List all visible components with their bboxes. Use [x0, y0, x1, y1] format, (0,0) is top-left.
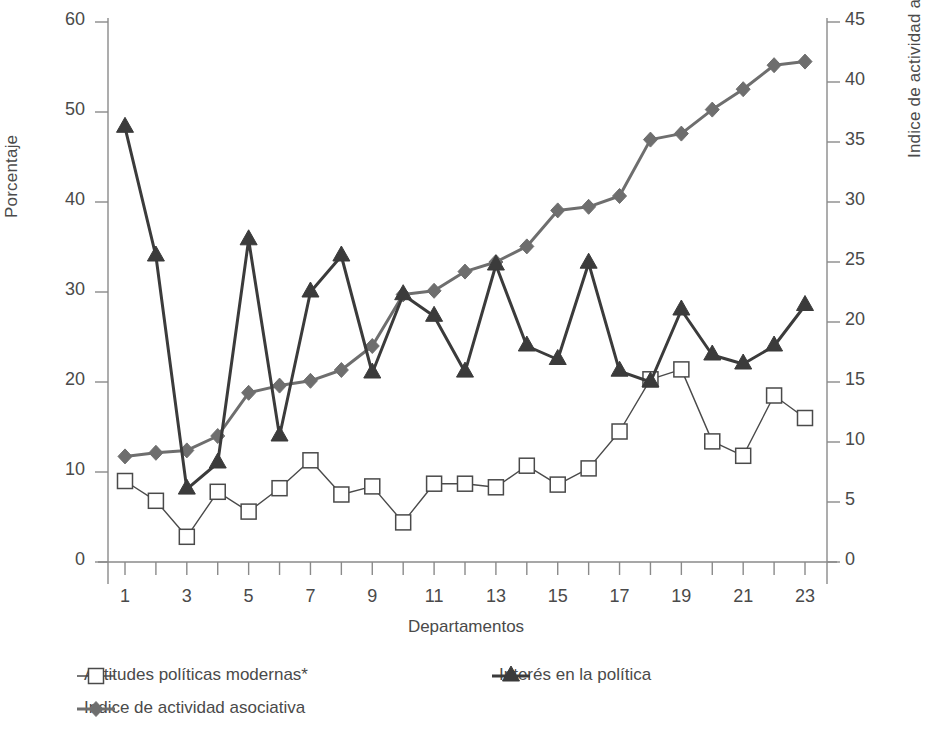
legend-marker-filled-triangle-icon: [490, 665, 532, 687]
x-tick-label: 21: [723, 586, 763, 607]
series-line: [125, 127, 805, 489]
series-marker: [396, 515, 411, 530]
y-tick-label-right: 40: [845, 69, 891, 90]
series-marker: [118, 474, 133, 489]
legend-marker: [89, 669, 104, 684]
x-tick-label: 19: [661, 586, 701, 607]
series-marker: [458, 476, 473, 491]
series-marker: [582, 199, 596, 214]
legend-item-label: Actitudes políticas modernas*: [84, 665, 308, 685]
series-marker: [334, 487, 349, 502]
y-tick-label-left: 20: [33, 369, 85, 390]
y-tick-label-right: 0: [845, 549, 891, 570]
legend-item-label: Indice de actividad asociativa: [84, 698, 305, 718]
y-tick-label-right: 20: [845, 309, 891, 330]
x-tick-label: 17: [600, 586, 640, 607]
series-marker: [149, 445, 163, 460]
series-marker: [643, 132, 657, 147]
series-marker: [613, 189, 627, 204]
legend-marker-filled-diamond-icon: [75, 698, 117, 720]
y-tick-label-right: 25: [845, 249, 891, 270]
series-marker: [427, 476, 442, 491]
x-tick-label: 23: [785, 586, 825, 607]
series-marker: [518, 336, 535, 351]
series-3: [118, 54, 812, 464]
series-marker: [272, 481, 287, 496]
y-tick-label-left: 50: [33, 99, 85, 120]
series-marker: [303, 373, 317, 388]
series-marker: [611, 361, 628, 376]
series-marker: [365, 479, 380, 494]
legend-item[interactable]: Actitudes políticas modernas*: [75, 665, 308, 685]
series-marker: [364, 363, 381, 378]
series-marker: [179, 529, 194, 544]
y-tick-label-right: 15: [845, 369, 891, 390]
x-tick-label: 9: [352, 586, 392, 607]
legend-marker: [89, 702, 103, 717]
y-tick-label-left: 40: [33, 189, 85, 210]
y-tick-label-right: 30: [845, 189, 891, 210]
y-tick-label-left: 0: [33, 549, 85, 570]
series-marker: [178, 479, 195, 494]
series-marker: [240, 230, 257, 245]
y-tick-label-right: 5: [845, 489, 891, 510]
legend-marker: [503, 666, 520, 681]
series-marker: [271, 426, 288, 441]
series-marker: [458, 264, 472, 279]
series-marker: [674, 362, 689, 377]
series-marker: [241, 504, 256, 519]
legend-item[interactable]: Indice de actividad asociativa: [75, 698, 305, 718]
series-marker: [798, 54, 812, 69]
series-marker: [427, 283, 441, 298]
x-tick-label: 1: [105, 586, 145, 607]
series-marker: [612, 424, 627, 439]
series-marker: [303, 453, 318, 468]
series-marker: [550, 477, 565, 492]
series-marker: [118, 449, 132, 464]
y-tick-label-right: 10: [845, 429, 891, 450]
y-tick-label-left: 30: [33, 279, 85, 300]
x-tick-label: 11: [414, 586, 454, 607]
series-marker: [798, 411, 813, 426]
series-marker: [581, 461, 596, 476]
chart-root: Porcentaje Indice de actividad asociativ…: [0, 0, 932, 735]
x-tick-label: 15: [538, 586, 578, 607]
y-tick-label-left: 10: [33, 459, 85, 480]
chart-plot-area: [0, 0, 932, 735]
series-marker: [210, 484, 225, 499]
series-marker: [209, 453, 226, 468]
series-marker: [117, 117, 134, 132]
series-marker: [273, 378, 287, 393]
x-tick-label: 3: [167, 586, 207, 607]
series-marker: [705, 434, 720, 449]
series-marker: [519, 458, 534, 473]
legend-item[interactable]: Interés en la política: [490, 665, 651, 685]
legend-marker-open-square-icon: [75, 665, 117, 687]
series-marker: [673, 300, 690, 315]
series-marker: [580, 253, 597, 268]
series-marker: [147, 246, 164, 261]
series-1: [118, 362, 813, 544]
series-marker: [767, 388, 782, 403]
x-tick-label: 7: [290, 586, 330, 607]
series-marker: [797, 296, 814, 311]
y-tick-label-right: 45: [845, 9, 891, 30]
x-tick-label: 5: [229, 586, 269, 607]
series-marker: [148, 493, 163, 508]
series-marker: [736, 448, 751, 463]
x-tick-label: 13: [476, 586, 516, 607]
series-marker: [333, 246, 350, 261]
series-marker: [488, 480, 503, 495]
y-tick-label-left: 60: [33, 9, 85, 30]
y-tick-label-right: 35: [845, 129, 891, 150]
